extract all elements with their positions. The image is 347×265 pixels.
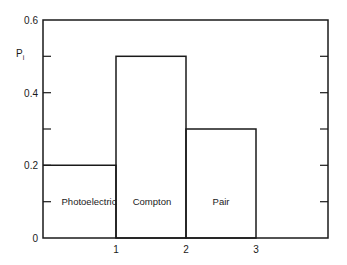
- y-tick-label: 0.2: [24, 160, 38, 171]
- x-tick-label: 1: [113, 244, 119, 255]
- y-axis-label: Pi: [16, 48, 25, 61]
- x-tick-label: 3: [253, 244, 259, 255]
- bar-compton: [116, 56, 186, 238]
- bar-pair: [186, 129, 256, 238]
- y-tick-label: 0.6: [24, 15, 38, 26]
- bars: [43, 56, 256, 238]
- y-ticks-right: [320, 56, 328, 201]
- x-tick-label: 2: [183, 244, 189, 255]
- y-ticks-left: [43, 56, 51, 201]
- bar-label-photoelectric: Photoelectric: [62, 196, 117, 207]
- histogram-chart: 0.6 0.4 0.2 0 Pi 1 2 3 Photoelectric Com…: [0, 0, 347, 265]
- y-tick-label: 0.4: [24, 88, 38, 99]
- bar-label-compton: Compton: [133, 196, 172, 207]
- y-tick-label: 0: [32, 233, 38, 244]
- bar-label-pair: Pair: [213, 196, 230, 207]
